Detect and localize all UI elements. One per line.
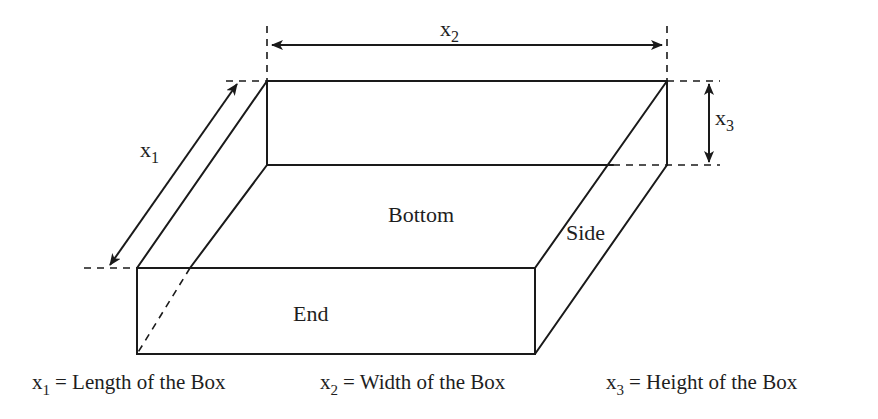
legend-x3: x3= Height of the Box — [606, 370, 798, 398]
box-diagram: x2 x1 x3 Bottom Side End x1= Length of t… — [0, 0, 878, 419]
end-face — [137, 268, 535, 354]
x1-label: x1 — [140, 137, 159, 166]
left-inner-diagonal — [190, 165, 267, 268]
bottom-face-label: Bottom — [388, 202, 454, 227]
legend-x1: x1= Length of the Box — [32, 370, 226, 398]
left-top-diagonal — [137, 81, 267, 268]
legend: x1= Length of the Box x2= Width of the B… — [32, 370, 798, 398]
right-bottom-diagonal — [535, 165, 667, 354]
end-face-label: End — [293, 301, 328, 326]
extension-lines — [84, 26, 720, 354]
x2-label: x2 — [440, 16, 459, 45]
hidden-edge — [137, 268, 190, 354]
x1-double-arrow — [110, 84, 237, 265]
legend-x2: x2= Width of the Box — [320, 370, 506, 398]
side-face-label: Side — [566, 220, 605, 245]
x3-label: x3 — [715, 105, 734, 134]
